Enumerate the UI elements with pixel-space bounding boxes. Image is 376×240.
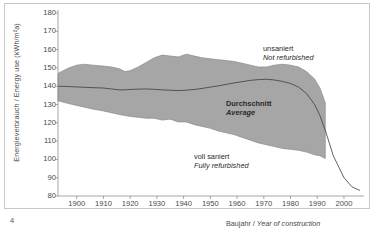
x-axis-tick-1950: 1950	[202, 199, 219, 208]
x-axis-tick-1980: 1980	[282, 199, 299, 208]
x-axis-title-de: Baujahr	[226, 219, 251, 228]
page-number: 4	[10, 216, 14, 225]
x-axis-tick-1960: 1960	[229, 199, 246, 208]
annotation-durchschnitt: Durchschnitt Average	[226, 99, 272, 117]
band-area-unsaniert-vollsaniert	[58, 54, 325, 158]
x-axis-title: Baujahr / Year of construction	[226, 219, 320, 228]
annotation-unsaniert-en: Not refurbished	[263, 53, 314, 62]
annotation-voll-saniert-en: Fully refurbished	[194, 161, 249, 170]
annotation-durchschnitt-en: Average	[226, 108, 272, 117]
x-axis-tick-1900: 1900	[68, 199, 85, 208]
figure-container: Energieverbrauch / Energy use (kWh/m²a) …	[0, 0, 376, 240]
x-axis-title-en: Year of construction	[257, 219, 321, 228]
x-axis-tick-2000: 2000	[336, 199, 353, 208]
annotation-unsaniert-de: unsaniert	[263, 44, 314, 53]
x-axis-tick-1940: 1940	[175, 199, 192, 208]
annotation-unsaniert: unsaniert Not refurbished	[263, 44, 314, 62]
x-axis-tick-1990: 1990	[309, 199, 326, 208]
annotation-voll-saniert: voll saniert Fully refurbished	[194, 152, 249, 170]
x-axis-tick-1910: 1910	[95, 199, 112, 208]
x-axis-tick-1920: 1920	[122, 199, 139, 208]
annotation-voll-saniert-de: voll saniert	[194, 152, 249, 161]
x-axis-tick-labels: 1900191019201930194019501960197019801990…	[0, 199, 376, 213]
x-axis-tick-1930: 1930	[148, 199, 165, 208]
x-axis-tick-1970: 1970	[255, 199, 272, 208]
annotation-durchschnitt-de: Durchschnitt	[226, 99, 272, 108]
